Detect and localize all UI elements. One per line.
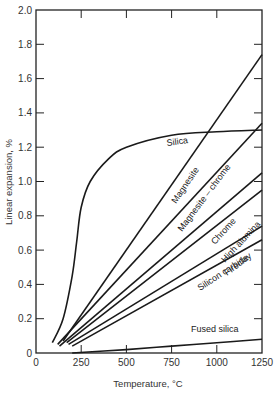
x-tick-label: 1000 <box>206 357 229 368</box>
y-tick-label: 0.6 <box>18 245 32 256</box>
x-axis-ticks: 025050075010001250 <box>33 10 273 368</box>
linear-expansion-chart: 00.20.40.60.81.01.21.41.61.82.0 02505007… <box>0 0 275 407</box>
y-tick-label: 1.4 <box>18 107 32 118</box>
x-tick-label: 250 <box>73 357 90 368</box>
x-tick-label: 0 <box>33 357 39 368</box>
y-tick-label: 0 <box>26 348 32 359</box>
y-tick-label: 1.6 <box>18 73 32 84</box>
y-axis-label: Linear expansion, % <box>3 138 14 225</box>
y-tick-label: 1.0 <box>18 176 32 187</box>
x-tick-label: 1250 <box>251 357 274 368</box>
y-tick-label: 0.8 <box>18 210 32 221</box>
label-silica: Silica <box>166 135 189 148</box>
curve-magnesite-chrome <box>58 123 262 344</box>
y-tick-label: 1.8 <box>18 39 32 50</box>
y-tick-label: 2.0 <box>18 5 32 16</box>
curve-fused-silica <box>72 339 262 353</box>
y-tick-label: 0.4 <box>18 279 32 290</box>
plot-frame <box>36 10 262 353</box>
x-axis-label: Temperature, °C <box>113 378 182 389</box>
x-tick-label: 750 <box>163 357 180 368</box>
y-tick-label: 0.2 <box>18 313 32 324</box>
y-tick-label: 1.2 <box>18 142 32 153</box>
label-fused-silica: Fused silica <box>191 324 239 334</box>
curve-chrome <box>60 173 263 346</box>
x-tick-label: 500 <box>118 357 135 368</box>
curves <box>52 55 262 353</box>
y-axis-ticks: 00.20.40.60.81.01.21.41.61.82.0 <box>18 5 262 359</box>
